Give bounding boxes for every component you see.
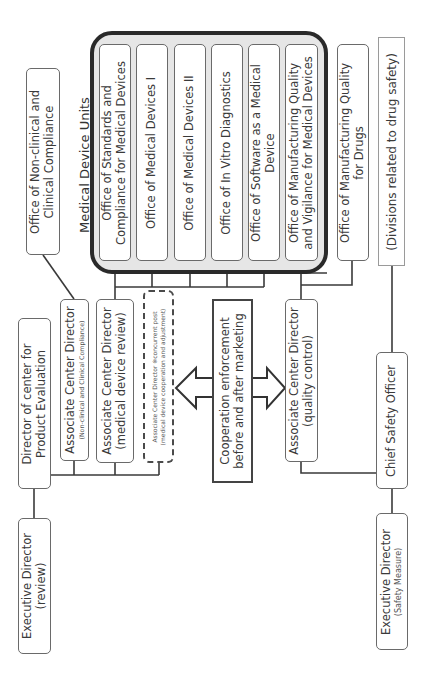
executive-director-safety-measure: Executive Director(Safety Measure) <box>376 513 408 650</box>
associate-director-device-review: Associate Center Director(medical device… <box>96 299 134 463</box>
cooperation-enforcement: Cooperation enforcementbefore and after … <box>212 299 253 483</box>
associate-director-concurrent: Associate Center Director ※concurrent po… <box>143 290 174 463</box>
office-software-medical-device: Office of Software as a MedicalDevice <box>248 44 280 261</box>
executive-director-review: Executive Director(review) <box>18 518 51 654</box>
drug-safety-divisions: (Divisions related to drug safety) <box>378 37 405 266</box>
office-nonclinical-clinical-compliance: Office of Non-clinical andClinical Compl… <box>26 68 60 255</box>
associate-director-quality-control: Associate Center Director(quality contro… <box>285 299 318 462</box>
chief-safety-officer: Chief Safety Officer <box>376 352 408 489</box>
office-in-vitro-diagnostics: Office of In Vitro Diagnostics <box>211 44 243 261</box>
office-manufacturing-quality-drugs: Office of Manufacturing Qualityfor Drugs <box>337 44 369 261</box>
office-standards-compliance: Office of Standards andCompliance for Me… <box>99 44 131 261</box>
office-medical-devices-2: Office of Medical Devices II <box>174 44 206 261</box>
office-medical-devices-1: Office of Medical Devices I <box>136 44 168 261</box>
associate-director-nonclinical: Associate Center Director(Non-clinical a… <box>60 299 89 461</box>
medical-device-units-title: Medical Device Units <box>77 97 92 233</box>
office-manufacturing-quality-vigilance: Office of Manufacturing Qualityand Vigil… <box>285 44 318 261</box>
org-chart: Medical Device Units Office of Standards… <box>0 0 422 688</box>
director-center-product-evaluation: Director of center forProduct Evaluation <box>18 318 51 489</box>
